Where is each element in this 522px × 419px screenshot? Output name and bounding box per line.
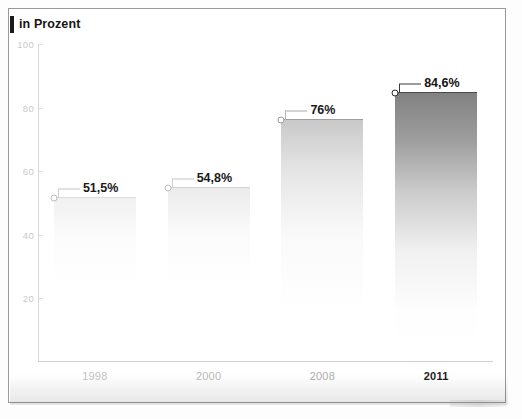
data-point-marker-1998 — [50, 195, 57, 202]
y-axis-tick-label: 20 — [10, 293, 34, 304]
bar-1998 — [54, 197, 136, 361]
y-axis-tick-mark — [38, 298, 43, 299]
value-label-2000: 54,8% — [197, 171, 232, 185]
bar-top-edge — [281, 119, 363, 120]
data-point-marker-2000 — [164, 184, 171, 191]
data-point-marker-2008 — [278, 117, 285, 124]
x-axis-label-1998: 1998 — [40, 370, 150, 382]
bar-2000 — [168, 187, 250, 361]
bar-2011 — [395, 92, 477, 361]
y-axis-tick-label: 80 — [10, 102, 34, 113]
y-axis-tick-mark — [38, 44, 43, 45]
bar-2008 — [281, 119, 363, 361]
y-axis-tick-label: 40 — [10, 229, 34, 240]
chart-title-text: in Prozent — [19, 17, 80, 31]
title-accent-bar — [10, 16, 14, 33]
data-point-marker-2011 — [392, 89, 399, 96]
chart-page: in Prozent 1008060402051,5%199854,8%2000… — [0, 0, 522, 419]
plot-area: 1008060402051,5%199854,8%200076%200884,6… — [38, 44, 493, 362]
x-axis-line — [38, 361, 493, 362]
y-axis-tick-mark — [38, 108, 43, 109]
y-axis-tick-label: 60 — [10, 166, 34, 177]
bar-top-edge — [168, 187, 250, 188]
bar-top-edge — [54, 197, 136, 198]
leader-line-1998 — [58, 189, 80, 190]
y-axis-tick-label: 100 — [10, 39, 34, 50]
x-axis-label-2011: 2011 — [381, 370, 491, 382]
leader-stub-2008 — [285, 111, 286, 120]
y-axis-tick-mark — [38, 171, 43, 172]
leader-line-2011 — [399, 83, 421, 84]
leader-stub-2011 — [399, 84, 400, 93]
y-axis-tick-mark — [38, 235, 43, 236]
leader-line-2008 — [285, 111, 307, 112]
leader-stub-2000 — [172, 179, 173, 188]
value-label-1998: 51,5% — [83, 181, 118, 195]
value-label-2011: 84,6% — [424, 76, 459, 90]
bar-top-edge — [395, 92, 477, 93]
y-axis-line — [38, 44, 39, 362]
scan-watermark — [450, 400, 506, 407]
x-axis-label-2000: 2000 — [154, 370, 264, 382]
x-axis-label-2008: 2008 — [267, 370, 377, 382]
chart-title: in Prozent — [10, 14, 80, 34]
leader-stub-1998 — [58, 189, 59, 198]
value-label-2008: 76% — [310, 103, 335, 117]
leader-line-2000 — [172, 178, 194, 179]
